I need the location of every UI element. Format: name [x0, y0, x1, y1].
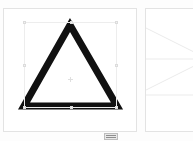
status-widget[interactable] [104, 133, 118, 140]
app-root: Triangle Canvas [0, 0, 193, 141]
resize-handle-bottom-center[interactable] [70, 106, 73, 109]
resize-handle-top-left[interactable] [23, 21, 26, 24]
center-origin-icon [68, 77, 73, 82]
drawing-canvas-right[interactable] [146, 9, 193, 131]
resize-handle-top-center[interactable] [70, 21, 73, 24]
drawing-canvas-left[interactable] [4, 9, 136, 131]
canvas-panel-right[interactable]: Zoomed Detail Canvas [145, 8, 193, 132]
status-widget-bar-top [106, 135, 116, 136]
resize-handle-bottom-right[interactable] [115, 106, 118, 109]
resize-handle-middle-left[interactable] [23, 64, 26, 67]
resize-handle-bottom-left[interactable] [23, 106, 26, 109]
guide-lines [146, 23, 193, 95]
status-widget-bar-bottom [106, 137, 116, 138]
resize-handle-top-right[interactable] [115, 21, 118, 24]
triangle-detail-shape[interactable] [146, 9, 193, 131]
resize-handle-middle-right[interactable] [115, 64, 118, 67]
selection-bounding-box[interactable] [24, 22, 117, 108]
canvas-panel-left[interactable]: Triangle Canvas [3, 8, 137, 132]
